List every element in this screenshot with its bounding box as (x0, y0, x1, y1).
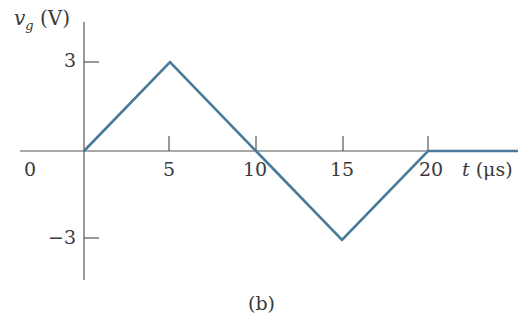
x-axis-label: t (μs) (462, 158, 513, 180)
x-tick-label-10: 10 (243, 158, 267, 180)
y-axis-label: vg (V) (14, 6, 70, 33)
x-tick-label-20: 20 (419, 158, 443, 180)
x-tick-label-5: 5 (163, 158, 175, 180)
y-tick-label-3: 3 (64, 49, 76, 71)
x-tick-label-15: 15 (330, 158, 354, 180)
x-axis-unit: (μs) (476, 158, 513, 180)
y-tick-label-neg3: −3 (48, 226, 76, 248)
y-axis-unit: (V) (40, 6, 70, 30)
figure-caption: (b) (248, 292, 275, 314)
y-axis-subscript: g (25, 18, 33, 33)
x-axis-var: t (462, 158, 470, 180)
y-axis-var: v (14, 6, 25, 30)
x-tick-label-0: 0 (24, 158, 36, 180)
